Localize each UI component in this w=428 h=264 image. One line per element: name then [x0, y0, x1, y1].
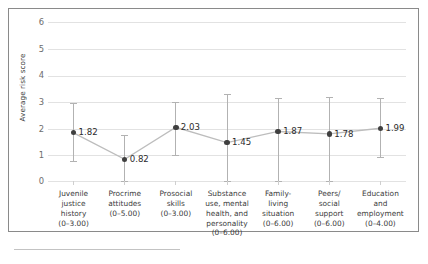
error-bar-cap-upper — [121, 135, 128, 136]
data-point-marker — [173, 125, 178, 130]
error-bar-cap-upper — [275, 98, 282, 99]
data-point-marker — [224, 140, 229, 145]
x-axis-category-label: Family- living situation (0–6.00) — [253, 189, 304, 228]
error-bar-cap-upper — [224, 94, 231, 95]
error-bar-cap-lower — [70, 161, 77, 162]
x-axis-category-label: Education and employment (0–4.00) — [355, 189, 406, 228]
error-bar-cap-upper — [377, 98, 384, 99]
error-bar — [329, 97, 330, 181]
x-tick-mark — [124, 181, 125, 185]
error-bar — [227, 94, 228, 181]
data-point-marker — [378, 126, 383, 131]
error-bar-cap-upper — [326, 97, 333, 98]
x-tick-mark — [380, 181, 381, 185]
x-tick-mark — [227, 181, 228, 185]
data-point-marker — [275, 129, 280, 134]
error-bar-cap-lower — [377, 157, 384, 158]
x-tick-mark — [329, 181, 330, 185]
data-point-label: 2.03 — [181, 123, 200, 132]
data-point-marker — [327, 131, 332, 136]
x-tick-mark — [175, 181, 176, 185]
scan-artifact-line — [14, 249, 180, 250]
risk-score-line-chart: Average risk score 6 5 4 3 2 1 0 1.82Juv… — [9, 9, 420, 233]
x-tick-mark — [73, 181, 74, 185]
error-bar-cap-lower — [172, 155, 179, 156]
x-tick-mark — [278, 181, 279, 185]
data-point-label: 0.82 — [130, 155, 149, 164]
error-bar-cap-upper — [172, 102, 179, 103]
data-point-label: 1.99 — [385, 124, 404, 133]
data-point-label: 1.45 — [232, 138, 251, 147]
data-point-label: 1.78 — [334, 130, 353, 139]
x-axis-category-label: Substance use, mental health, and person… — [201, 189, 252, 238]
x-axis-category-label: Peers/ social support (0–6.00) — [304, 189, 355, 228]
x-axis-category-label: Procrime attitudes (0–5.00) — [99, 189, 150, 219]
x-axis-category-label: Juvenile justice history (0–3.00) — [48, 189, 99, 228]
figure-border: Average risk score 6 5 4 3 2 1 0 1.82Juv… — [8, 8, 419, 232]
x-axis-category-label: Prosocial skills (0–3.00) — [150, 189, 201, 219]
data-point-label: 1.87 — [283, 127, 302, 136]
error-bar-cap-upper — [70, 103, 77, 104]
data-point-label: 1.82 — [79, 128, 98, 137]
error-bar — [278, 98, 279, 181]
